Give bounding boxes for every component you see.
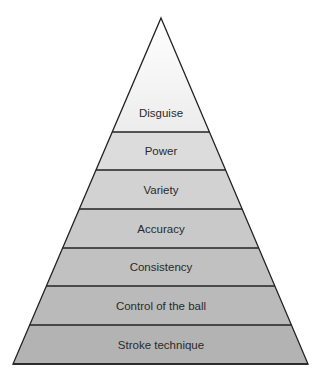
- pyramid-label: Variety: [144, 184, 179, 196]
- pyramid-diagram: DisguisePowerVarietyAccuracyConsistencyC…: [0, 0, 322, 377]
- pyramid-label: Consistency: [130, 261, 193, 273]
- pyramid-label: Disguise: [139, 107, 183, 119]
- pyramid-label: Accuracy: [137, 223, 185, 235]
- pyramid-label: Control of the ball: [116, 300, 206, 312]
- pyramid-label: Power: [145, 145, 178, 157]
- pyramid-label: Stroke technique: [118, 339, 204, 351]
